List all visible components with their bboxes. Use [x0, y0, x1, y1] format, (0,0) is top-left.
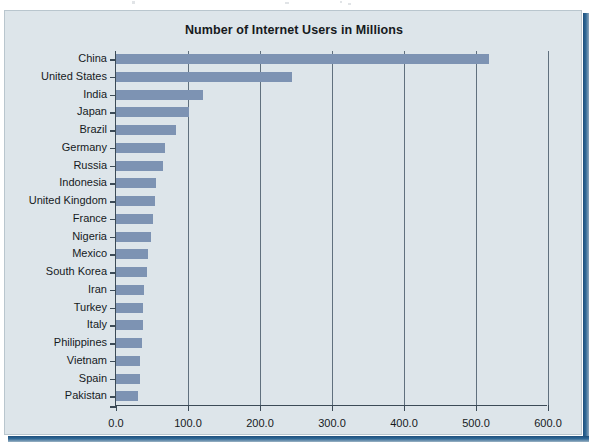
y-axis-category-label: Brazil	[79, 123, 107, 135]
gridline	[260, 51, 261, 405]
x-axis-tick-label: 100.0	[174, 417, 202, 429]
plot-area: 0.0100.0200.0300.0400.0500.0600.0 ChinaU…	[115, 51, 547, 406]
x-axis-tick-label: 300.0	[318, 417, 346, 429]
y-axis-category-label: Italy	[87, 318, 107, 330]
bar	[116, 391, 138, 401]
page-shadow-bottom	[8, 436, 589, 442]
bar	[116, 107, 189, 117]
y-axis-category-label: Japan	[77, 105, 107, 117]
y-axis-category-label: Spain	[79, 372, 107, 384]
y-axis-category-label: Mexico	[72, 247, 107, 259]
bar	[116, 356, 140, 366]
scan-artifacts	[0, 0, 591, 10]
bar	[116, 178, 156, 188]
y-axis-category-label: Pakistan	[65, 389, 107, 401]
bar	[116, 374, 140, 384]
gridline	[548, 51, 549, 405]
x-axis-tick-label: 0.0	[108, 417, 123, 429]
bar	[116, 196, 155, 206]
y-axis-category-label: France	[73, 212, 107, 224]
x-axis-tick	[548, 405, 549, 411]
x-axis-tick-label: 400.0	[390, 417, 418, 429]
y-axis-category-label: China	[78, 52, 107, 64]
bar	[116, 90, 203, 100]
bar	[116, 125, 176, 135]
bar	[116, 161, 163, 171]
y-axis-category-label: Vietnam	[67, 354, 107, 366]
bar	[116, 285, 144, 295]
y-axis-category-label: South Korea	[46, 265, 107, 277]
y-axis-category-label: United Kingdom	[29, 194, 107, 206]
y-axis-tick	[110, 406, 116, 408]
bar	[116, 72, 292, 82]
gridline	[332, 51, 333, 405]
x-axis-tick	[476, 405, 477, 411]
bar	[116, 54, 489, 64]
gridline	[188, 51, 189, 405]
x-axis-tick	[260, 405, 261, 411]
bar	[116, 320, 143, 330]
x-axis-tick-label: 500.0	[462, 417, 490, 429]
bar	[116, 303, 143, 313]
y-axis-category-label: Russia	[73, 159, 107, 171]
bar	[116, 267, 147, 277]
bar	[116, 143, 165, 153]
y-axis-category-label: Germany	[62, 141, 107, 153]
x-axis-tick	[332, 405, 333, 411]
x-axis-tick	[404, 405, 405, 411]
x-axis-tick-label: 200.0	[246, 417, 274, 429]
bar	[116, 338, 142, 348]
bar	[116, 214, 153, 224]
bar	[116, 232, 151, 242]
page-shadow-right	[583, 13, 589, 439]
gridline	[404, 51, 405, 405]
x-axis-tick-label: 600.0	[534, 417, 562, 429]
chart-title: Number of Internet Users in Millions	[5, 23, 583, 37]
x-axis-tick	[116, 405, 117, 411]
y-axis-category-label: India	[83, 88, 107, 100]
x-axis-tick	[188, 405, 189, 411]
y-axis-category-label: Iran	[88, 283, 107, 295]
y-axis-category-label: Nigeria	[72, 230, 107, 242]
y-axis-category-label: United States	[41, 70, 107, 82]
y-axis-category-label: Indonesia	[59, 176, 107, 188]
gridline	[476, 51, 477, 405]
y-axis-category-label: Philippines	[54, 336, 107, 348]
y-axis-category-label: Turkey	[74, 301, 107, 313]
chart-figure: Number of Internet Users in Millions 0.0…	[4, 10, 582, 435]
bar	[116, 249, 148, 259]
